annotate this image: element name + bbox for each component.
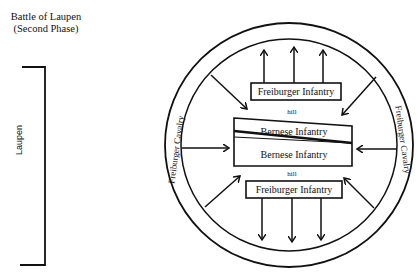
laupen-bracket <box>20 67 45 265</box>
svg-text:Freiburger Infantry: Freiburger Infantry <box>258 86 335 97</box>
cavalry-label-left: Freiburger Cavalry <box>166 114 186 184</box>
arrows-down <box>262 198 321 242</box>
hill-label-bottom: hill <box>287 170 296 178</box>
arrows-up <box>264 47 323 83</box>
bernese-infantry-lower: Bernese Infantry <box>261 149 328 160</box>
freiburger-infantry-bottom: Freiburger Infantry <box>246 181 342 198</box>
svg-text:Freiburger Infantry: Freiburger Infantry <box>256 184 333 195</box>
freiburger-infantry-top: Freiburger Infantry <box>251 83 341 100</box>
hill-label-top: hill <box>287 108 296 116</box>
battle-diagram: Freiburger Cavalry Freiburger Cavalry Fr… <box>0 0 418 272</box>
bernese-infantry-upper: Bernese Infantry <box>261 126 328 137</box>
laupen-label: Laupen <box>14 125 24 155</box>
